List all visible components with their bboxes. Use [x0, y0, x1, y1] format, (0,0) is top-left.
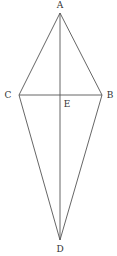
label-c: C — [5, 90, 12, 100]
segment-cd — [19, 95, 60, 240]
label-d: D — [56, 244, 63, 254]
kite-diagram: A C B E D — [0, 0, 117, 256]
segment-ac — [19, 13, 60, 95]
segment-ab — [60, 13, 102, 95]
label-e: E — [64, 99, 71, 109]
segment-bd — [60, 95, 102, 240]
label-a: A — [56, 0, 64, 10]
label-b: B — [107, 90, 114, 100]
